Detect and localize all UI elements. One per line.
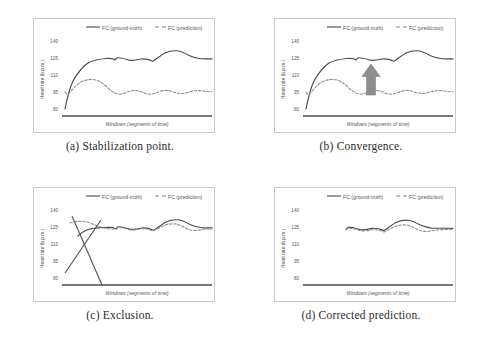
ytick-110: 110 (292, 73, 300, 78)
plot-svg-c: FC (ground-truth) FC (prediction) 140 12… (34, 188, 216, 303)
ytick-125: 125 (291, 56, 299, 61)
y-axis-label: Heart rate (b.p.m.) (40, 59, 45, 99)
ytick-80: 80 (53, 107, 59, 112)
series-ground-truth-c (78, 220, 212, 236)
panel-c: FC (ground-truth) FC (prediction) 140 12… (0, 169, 240, 338)
plot-area-d: FC (ground-truth) FC (prediction) 140 12… (274, 187, 456, 302)
panel-a: FC (ground-truth) FC (prediction) 140 12… (0, 0, 240, 169)
legend-label-ground-truth: FC (ground-truth) (102, 194, 142, 200)
ytick-110: 110 (51, 242, 59, 247)
series-prediction-a (65, 80, 212, 95)
ytick-140: 140 (50, 208, 58, 213)
ytick-110: 110 (51, 73, 59, 78)
legend-label-prediction: FC (prediction) (168, 25, 203, 31)
ytick-125: 125 (50, 225, 58, 230)
legend-label-prediction: FC (prediction) (409, 194, 444, 200)
series-prediction-c (70, 221, 212, 231)
ytick-125: 125 (291, 225, 299, 230)
legend-label-ground-truth: FC (ground-truth) (102, 25, 142, 31)
x-axis-label: Windows (segments of time) (346, 121, 409, 127)
x-axis-label: Windows (segments of time) (346, 290, 409, 296)
plot-area-a: FC (ground-truth) FC (prediction) 140 12… (33, 18, 215, 133)
y-axis-label: Heart rate (b.p.m.) (281, 59, 286, 99)
legend-label-ground-truth: FC (ground-truth) (343, 25, 383, 31)
plot-svg-a: FC (ground-truth) FC (prediction) 140 12… (34, 19, 216, 134)
x-axis-label: Windows (segments of time) (105, 290, 168, 296)
ytick-110: 110 (292, 242, 300, 247)
ytick-140: 140 (291, 39, 299, 44)
figure-container: FC (ground-truth) FC (prediction) 140 12… (0, 0, 481, 338)
panel-caption-a: (a) Stabilization point. (0, 140, 240, 152)
ytick-80: 80 (294, 276, 300, 281)
ytick-125: 125 (50, 56, 58, 61)
ytick-95: 95 (53, 259, 59, 264)
x-axis-label: Windows (segments of time) (105, 121, 168, 127)
ytick-140: 140 (50, 39, 58, 44)
legend-label-ground-truth: FC (ground-truth) (343, 194, 383, 200)
plot-area-c: FC (ground-truth) FC (prediction) 140 12… (33, 187, 215, 302)
ytick-95: 95 (294, 259, 300, 264)
y-axis-label: Heart rate (b.p.m.) (40, 228, 45, 268)
plot-svg-b: FC (ground-truth) FC (prediction) 140 12… (275, 19, 457, 134)
panel-d: FC (ground-truth) FC (prediction) 140 12… (241, 169, 481, 338)
series-prediction-b (306, 80, 453, 95)
panel-caption-c: (c) Exclusion. (0, 309, 240, 321)
y-axis-label: Heart rate (b.p.m.) (281, 228, 286, 268)
panel-b: FC (ground-truth) FC (prediction) 140 12… (241, 0, 481, 169)
plot-area-b: FC (ground-truth) FC (prediction) 140 12… (274, 18, 456, 133)
ytick-80: 80 (53, 276, 59, 281)
legend-label-prediction: FC (prediction) (409, 25, 444, 31)
exclusion-cross-stroke-2 (65, 220, 101, 273)
ytick-95: 95 (53, 90, 59, 95)
ytick-140: 140 (291, 208, 299, 213)
panel-caption-d: (d) Corrected prediction. (241, 309, 481, 321)
plot-svg-d: FC (ground-truth) FC (prediction) 140 12… (275, 188, 457, 303)
ytick-80: 80 (294, 107, 300, 112)
ytick-95: 95 (294, 90, 300, 95)
panel-caption-b: (b) Convergence. (241, 140, 481, 152)
legend-label-prediction: FC (prediction) (168, 194, 203, 200)
